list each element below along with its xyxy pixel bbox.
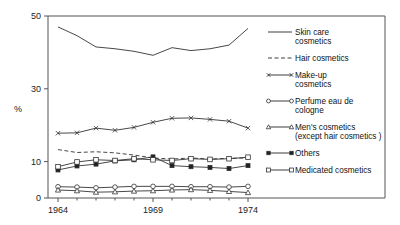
data-point-marker — [267, 168, 271, 172]
data-point-marker — [151, 157, 156, 162]
legend-label-line2: (except hair cosmetics ) — [295, 132, 382, 141]
y-tick-label: 10 — [31, 157, 41, 167]
x-tick-label: 1969 — [143, 205, 163, 215]
y-tick-label: 50 — [31, 11, 41, 21]
data-point-marker — [132, 156, 137, 161]
data-point-marker — [227, 167, 231, 171]
legend-label: Men's cosmetics — [295, 123, 355, 132]
legend-label-line2: cologne — [295, 106, 324, 115]
x-axis: 196419691974 — [48, 198, 258, 215]
x-tick-label: 1964 — [48, 205, 68, 215]
y-tick-label: 30 — [31, 84, 41, 94]
data-point-marker — [246, 164, 250, 168]
legend-item-make-up[interactable]: Make-upcosmetics — [267, 71, 332, 89]
legend-label: Others — [295, 149, 320, 158]
data-point-marker — [290, 168, 294, 172]
legend-label: Skin care — [295, 28, 330, 37]
data-point-marker — [94, 162, 98, 166]
legend-item-medicated-cosmetics[interactable]: Medicated cosmetics — [267, 166, 372, 175]
legend-item-others[interactable]: Others — [267, 149, 320, 158]
data-point-marker — [170, 164, 174, 168]
legend-item-hair-cosmetics[interactable]: Hair cosmetics — [268, 54, 349, 63]
series-skin-care-cosmetics — [58, 27, 248, 55]
x-tick-label: 1974 — [238, 205, 258, 215]
legend-item-men-s-cosmetics[interactable]: Men's cosmetics(except hair cosmetics ) — [266, 123, 381, 141]
series-men-s-cosmetics-except-hair-cosmetics — [55, 187, 250, 195]
legend-label-line2: cosmetics — [295, 80, 331, 89]
data-point-marker — [75, 160, 80, 165]
data-point-marker — [246, 126, 250, 130]
cosmetics-market-share-line-chart: 0103050 % 196419691974 Skin carecosmetic… — [0, 0, 400, 225]
data-point-marker — [189, 156, 194, 161]
series-line — [58, 118, 248, 133]
data-point-marker — [208, 165, 212, 169]
data-point-marker — [267, 99, 271, 103]
data-point-marker — [113, 158, 118, 163]
data-point-marker — [290, 99, 294, 103]
data-point-marker — [246, 184, 251, 189]
data-point-marker — [56, 164, 61, 169]
legend-label-line2: cosmetics — [295, 37, 331, 46]
y-axis-title: % — [14, 104, 22, 114]
data-point-marker — [208, 157, 213, 162]
y-axis: 0103050 — [31, 11, 48, 203]
data-point-marker — [267, 151, 270, 154]
series-make-up-cosmetics — [56, 116, 250, 136]
legend-label: Make-up — [295, 71, 327, 80]
data-point-marker — [94, 157, 99, 162]
data-point-marker — [170, 158, 175, 163]
chart-figure: 0103050 % 196419691974 Skin carecosmetic… — [0, 0, 400, 225]
chart-legend: Skin carecosmeticsHair cosmeticsMake-upc… — [266, 28, 381, 175]
y-tick-label: 0 — [36, 193, 41, 203]
data-point-marker — [227, 156, 232, 161]
series-line — [58, 27, 248, 55]
data-point-marker — [189, 165, 193, 169]
legend-item-perfume-eau-de[interactable]: Perfume eau decologne — [267, 97, 354, 115]
data-point-marker — [246, 155, 251, 160]
data-point-marker — [266, 125, 270, 129]
legend-label: Hair cosmetics — [295, 54, 349, 63]
data-point-marker — [289, 125, 293, 129]
legend-label: Perfume eau de — [295, 97, 354, 106]
data-series-group — [55, 27, 250, 195]
legend-item-skin-care[interactable]: Skin carecosmetics — [268, 28, 331, 46]
data-point-marker — [290, 151, 293, 154]
legend-label: Medicated cosmetics — [295, 166, 371, 175]
